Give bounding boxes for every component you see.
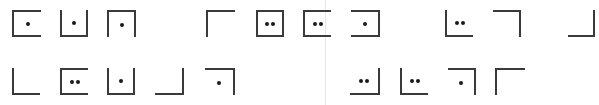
dot-icon: [72, 21, 76, 25]
dot-icon: [359, 79, 363, 83]
cipher-glyph: [206, 10, 235, 37]
dot-icon: [271, 22, 275, 26]
glyph-dots: [109, 79, 133, 83]
cipher-glyph: [205, 68, 235, 95]
glyph-dots: [350, 79, 378, 83]
cipher-glyph: [107, 68, 135, 95]
dot-icon: [416, 79, 420, 83]
glyph-dots: [109, 23, 134, 27]
dot-icon: [410, 79, 414, 83]
glyph-dots: [205, 81, 233, 85]
dot-icon: [461, 21, 465, 25]
glyph-dots: [351, 22, 378, 26]
dot-icon: [459, 81, 463, 85]
glyph-dots: [62, 21, 86, 25]
dot-icon: [26, 22, 30, 26]
dot-icon: [363, 22, 367, 26]
cipher-glyph: [303, 10, 331, 37]
glyph-dots: [448, 81, 474, 85]
cipher-glyph: [12, 68, 40, 95]
cipher-glyph: [12, 10, 41, 37]
cipher-glyph: [155, 68, 184, 95]
glyph-dots: [305, 22, 331, 26]
cipher-glyph: [568, 10, 595, 37]
glyph-dots: [402, 79, 428, 83]
cipher-glyph: [495, 68, 525, 95]
cipher-glyph: [493, 10, 521, 37]
cipher-glyph: [350, 68, 380, 95]
dot-icon: [365, 79, 369, 83]
cipher-glyph: [351, 10, 380, 37]
dot-icon: [76, 80, 80, 84]
cipher-glyph: [60, 68, 88, 95]
dot-icon: [313, 22, 317, 26]
glyph-dots: [62, 80, 88, 84]
cipher-glyph: [60, 10, 88, 37]
cipher-glyph: [445, 10, 473, 37]
glyph-dots: [447, 21, 473, 25]
dot-icon: [119, 79, 123, 83]
glyph-dots: [258, 22, 282, 26]
dot-icon: [120, 23, 124, 27]
dot-icon: [265, 22, 269, 26]
cipher-glyph: [107, 10, 136, 37]
dot-icon: [70, 80, 74, 84]
dot-icon: [455, 21, 459, 25]
cipher-glyph: [400, 68, 428, 95]
cipher-glyph: [256, 10, 284, 37]
dot-icon: [217, 81, 221, 85]
glyph-dots: [14, 22, 41, 26]
cipher-glyph: [448, 68, 476, 95]
dot-icon: [319, 22, 323, 26]
